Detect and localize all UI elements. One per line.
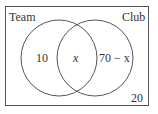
intersection-value: x — [72, 51, 79, 65]
venn-diagram: Team Club 10 x 70 − x 20 — [0, 0, 158, 114]
team-circle — [21, 20, 97, 96]
club-only-value: 70 − x — [99, 51, 130, 65]
team-only-value: 10 — [36, 51, 48, 65]
outside-value: 20 — [131, 91, 143, 105]
team-label: Team — [9, 10, 36, 24]
club-label: Club — [122, 10, 145, 24]
